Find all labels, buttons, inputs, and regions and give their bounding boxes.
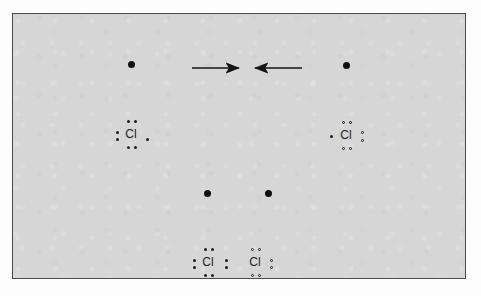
nucleus-left-atom <box>128 61 135 68</box>
electron-dot-hollow <box>342 147 345 150</box>
diagram-canvas <box>13 14 466 279</box>
illustration-panel: Cl Cl Cl <box>12 13 466 279</box>
electron-dot <box>193 259 196 262</box>
electron-dot <box>134 120 137 123</box>
nucleus-molecule-right <box>265 190 272 197</box>
figure-root: Cl Cl Cl <box>0 0 481 296</box>
electron-dot <box>193 266 196 269</box>
electron-dot <box>211 274 214 277</box>
electron-dot-hollow <box>361 131 364 134</box>
electron-dot <box>330 135 333 138</box>
electron-dot-hollow <box>251 248 254 251</box>
electron-dot-hollow <box>361 139 364 142</box>
lewis-structure-right-atom: Cl <box>315 115 377 155</box>
electron-dot-hollow <box>270 266 273 269</box>
lewis-symbol-left: Cl <box>100 114 162 154</box>
electron-dot-hollow <box>251 274 254 277</box>
lewis-structure-left-atom: Cl <box>100 114 162 154</box>
nucleus-right-atom <box>343 62 350 69</box>
electron-dot-hollow <box>258 248 261 251</box>
electron-dot <box>116 138 119 141</box>
lewis-symbol-right: Cl <box>315 115 377 155</box>
lewis-symbol-molecule-right: Cl <box>224 242 286 279</box>
electron-dot-hollow <box>270 259 273 262</box>
nucleus-molecule-left <box>204 190 211 197</box>
electron-dot-hollow <box>258 274 261 277</box>
electron-dot <box>116 131 119 134</box>
electron-dot <box>127 120 130 123</box>
electron-dot <box>204 274 207 277</box>
electron-dot <box>211 248 214 251</box>
electron-dot-hollow <box>349 121 352 124</box>
electron-dot <box>146 138 149 141</box>
electron-dot <box>134 146 137 149</box>
electron-dot <box>127 146 130 149</box>
electron-dot <box>204 248 207 251</box>
electron-dot-hollow <box>349 147 352 150</box>
lewis-structure-molecule-right: Cl <box>224 242 286 279</box>
electron-dot-hollow <box>342 121 345 124</box>
